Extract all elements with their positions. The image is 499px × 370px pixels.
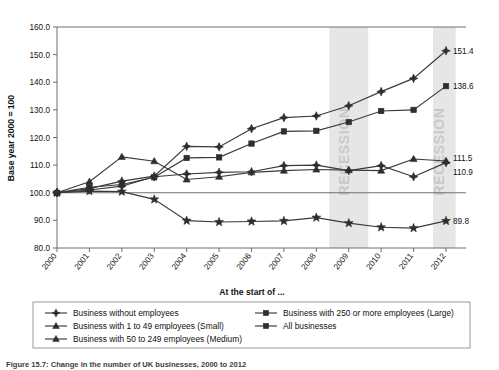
y-tick-label: 130.0 (30, 106, 51, 115)
data-point-star (182, 216, 191, 224)
recession-band-2-label: RECESSION (431, 108, 447, 196)
data-point-diamond (409, 172, 418, 181)
x-tick-label: 2002 (105, 251, 124, 271)
x-axis-title: At the start of ... (219, 287, 284, 297)
data-point-diamond (53, 188, 62, 197)
y-tick-label: 90.0 (34, 216, 50, 225)
data-point-diamond (280, 161, 289, 170)
legend-label-2: Business with 50 to 249 employees (Mediu… (73, 334, 242, 344)
data-point-star (377, 223, 386, 231)
data-point-star (247, 217, 256, 225)
data-point-triangle (86, 178, 93, 184)
y-tick-label: 110.0 (30, 161, 50, 170)
y-axis-title: Base year 2000 = 100 (6, 95, 16, 181)
x-tick-label: 2000 (40, 251, 59, 271)
legend-item-3[interactable]: Business with 250 or more employees (Lar… (255, 308, 454, 318)
x-tick-label: 2008 (300, 251, 319, 271)
x-tick-label: 2011 (397, 251, 415, 271)
data-point-diamond (182, 170, 191, 179)
y-tick-label: 150.0 (30, 51, 51, 60)
data-point-square (378, 108, 383, 113)
x-tick-label: 2004 (170, 251, 189, 271)
data-point-square (443, 83, 448, 88)
figure-caption: Figure 15.7: Change in the number of UK … (6, 360, 246, 370)
series-3 (54, 83, 448, 195)
data-point-star (280, 216, 289, 224)
data-point-diamond (377, 161, 386, 170)
y-tick-label: 140.0 (30, 78, 51, 87)
data-point-square (346, 119, 351, 124)
data-point-square (263, 310, 268, 315)
end-label-3: 138.6 (453, 82, 474, 91)
legend-label-1: Business with 1 to 49 employees (Small) (73, 321, 224, 331)
data-point-diamond (312, 112, 321, 121)
data-point-diamond (118, 182, 127, 191)
data-point-square (216, 155, 221, 160)
end-label-2: 111.5 (453, 154, 473, 163)
end-label-0: 151.4 (453, 47, 474, 56)
legend-label-0: Business without employees (73, 308, 179, 318)
y-tick-label: 80.0 (34, 244, 50, 253)
data-point-square (281, 129, 286, 134)
data-point-square (184, 155, 189, 160)
data-point-diamond (377, 87, 386, 96)
chart-series (53, 46, 451, 231)
y-tick-label: 100.0 (30, 189, 51, 198)
data-point-diamond (215, 168, 224, 177)
chart-axes: 80.090.0100.0110.0120.0130.0140.0150.016… (30, 23, 467, 272)
figure-container: RECESSIONRECESSION 80.090.0100.0110.0120… (0, 0, 499, 370)
recession-bands: RECESSIONRECESSION (329, 27, 455, 248)
series-1 (53, 186, 451, 231)
data-point-star (215, 217, 224, 225)
end-label-1: 89.8 (453, 217, 469, 226)
legend-label-4: All businesses (283, 321, 337, 331)
end-value-labels: 151.489.8111.5138.6110.9 (453, 47, 474, 226)
end-label-4: 110.9 (453, 168, 473, 177)
data-point-square (411, 107, 416, 112)
data-point-triangle (118, 153, 125, 159)
data-point-diamond (280, 113, 289, 122)
legend-label-3: Business with 250 or more employees (Lar… (283, 308, 454, 318)
x-tick-label: 2007 (267, 251, 286, 271)
x-tick-label: 2005 (202, 251, 221, 271)
x-tick-label: 2010 (364, 251, 383, 271)
data-point-star (409, 223, 418, 231)
x-tick-label: 2003 (138, 251, 157, 271)
chart-legend: Business without employeesBusiness with … (33, 302, 470, 348)
data-point-triangle (410, 155, 417, 161)
x-tick-label: 2012 (429, 251, 448, 271)
y-tick-label: 160.0 (30, 23, 51, 32)
x-tick-label: 2001 (73, 251, 92, 271)
data-point-square (263, 323, 268, 328)
legend-item-2[interactable]: Business with 50 to 249 employees (Mediu… (45, 334, 242, 344)
x-tick-label: 2009 (332, 251, 351, 271)
x-tick-label: 2006 (235, 251, 254, 271)
data-point-square (314, 128, 319, 133)
data-point-star (312, 213, 321, 221)
data-point-diamond (247, 124, 256, 133)
data-point-square (249, 141, 254, 146)
data-point-diamond (215, 143, 224, 152)
data-point-diamond (312, 161, 321, 170)
line-chart: RECESSIONRECESSION 80.090.0100.0110.0120… (0, 0, 499, 356)
y-tick-label: 120.0 (30, 134, 51, 143)
